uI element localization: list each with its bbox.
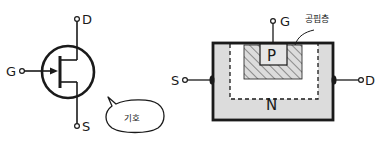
jfet-symbol: D G S (6, 12, 94, 134)
symbol-drain-label: D (82, 12, 92, 27)
depletion-label: 공핍층 (305, 14, 329, 24)
bubble-text: 기호 (124, 113, 140, 123)
source-terminal (75, 124, 80, 129)
structure-gate-label: G (280, 14, 290, 29)
drain-terminal (75, 17, 80, 22)
gate-arrow-icon (50, 68, 58, 75)
jfet-structure: P N G 공핍층 S D (171, 14, 375, 120)
symbol-gate-label: G (6, 64, 16, 79)
speech-bubble: 기호 (106, 97, 164, 133)
n-region-label: N (266, 96, 277, 114)
p-region-label: P (267, 47, 276, 65)
structure-source-label: S (171, 73, 179, 88)
structure-drain-label: D (365, 73, 375, 88)
symbol-source-label: S (82, 119, 90, 134)
gate-terminal (20, 69, 25, 74)
structure-source-terminal (183, 78, 188, 83)
structure-drain-terminal (359, 78, 364, 83)
structure-gate-terminal (271, 19, 276, 24)
symbol-circle (42, 46, 94, 98)
jfet-diagram: D G S 기호 P N G 공핍층 S (0, 0, 380, 150)
